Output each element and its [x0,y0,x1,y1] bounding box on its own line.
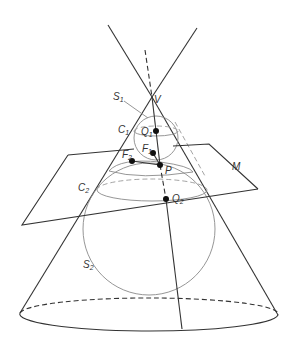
upper-cone-left-edge [108,25,152,97]
cone-base-front [20,313,278,331]
hidden-cone-edge [175,122,205,176]
label-c1: C1 [118,124,129,136]
sphere-s1 [134,116,178,160]
label-q2: Q2 [172,193,184,205]
cone-left-edge [20,97,152,313]
label-m: M [232,161,241,172]
label-s2: S2 [83,259,94,271]
plane-m-back-right [173,144,258,189]
label-q1: Q1 [141,126,153,138]
label-v: V [154,94,162,105]
cone-right-edge [152,97,278,315]
plane-m-front [22,155,258,225]
label-f1: F1 [142,143,152,155]
label-f2: F2 [122,149,132,161]
circle-c2-back [97,179,207,190]
label-c2: C2 [78,182,89,194]
generator-line-lower [166,199,182,329]
conic-section-lower [109,171,193,176]
cone-axis-dashed [145,50,152,97]
label-s1: S1 [113,91,124,103]
label-p: P [165,165,172,176]
upper-cone-right-edge [152,28,197,97]
point-p [157,162,163,168]
point-q1 [153,128,159,134]
cone-base-back [20,298,278,315]
point-q2 [163,196,169,202]
dandelin-diagram: V S1 C1 Q1 F1 F2 P M C2 Q2 S2 [0,0,294,356]
